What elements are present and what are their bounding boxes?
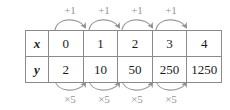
top-arrow-group — [55, 20, 186, 30]
cell-x-4: 4 — [187, 31, 222, 57]
top-arrow-label-2: +1 — [92, 4, 116, 16]
table-row-x: x 0 1 2 3 4 — [26, 31, 222, 57]
top-arrow-2 — [89, 20, 119, 30]
value-table: x 0 1 2 3 4 y 2 10 50 250 1250 — [25, 30, 222, 83]
cell-x-2: 2 — [118, 31, 153, 57]
cell-y-1: 10 — [83, 57, 118, 83]
table-row-y: y 2 10 50 250 1250 — [26, 57, 222, 83]
top-arrow-3 — [122, 20, 152, 30]
bottom-arrow-label-1: ×5 — [58, 93, 82, 105]
top-arrow-label-3: +1 — [125, 4, 149, 16]
cell-y-0: 2 — [49, 57, 84, 83]
bottom-arrow-label-2: ×5 — [92, 93, 116, 105]
cell-x-1: 1 — [83, 31, 118, 57]
row-label-x: x — [26, 31, 49, 57]
top-arrow-4 — [156, 20, 186, 30]
row-label-y: y — [26, 57, 49, 83]
cell-x-0: 0 — [49, 31, 84, 57]
bottom-arrow-label-3: ×5 — [125, 93, 149, 105]
cell-x-3: 3 — [152, 31, 187, 57]
top-arrow-label-1: +1 — [58, 4, 82, 16]
cell-y-3: 250 — [152, 57, 187, 83]
bottom-arrow-label-4: ×5 — [159, 93, 183, 105]
cell-y-2: 50 — [118, 57, 153, 83]
cell-y-4: 1250 — [187, 57, 222, 83]
top-arrow-1 — [55, 20, 85, 30]
input-output-table-figure: +1 +1 +1 +1 ×5 ×5 ×5 ×5 x 0 1 2 3 4 y 2 … — [0, 0, 230, 110]
top-arrow-label-4: +1 — [159, 4, 183, 16]
